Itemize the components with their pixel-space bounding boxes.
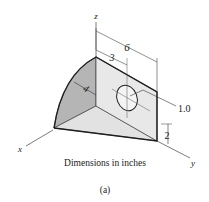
x-axis [26, 130, 53, 146]
x-axis-label: x [17, 144, 22, 154]
caption: Dimensions in inches [64, 158, 146, 168]
y-axis-label: y [190, 158, 195, 168]
dim-3-label: 3 [109, 52, 115, 63]
dim-1-label: 1.0 [178, 103, 191, 114]
dim-6-label: 6 [124, 41, 130, 53]
part-diagram: 6 3 4 1.0 2 z x y Dimensions in inches (… [0, 0, 209, 202]
y-axis [157, 141, 190, 158]
sublabel: (a) [100, 185, 111, 196]
z-axis-label: z [93, 11, 98, 21]
dim-2-label: 2 [165, 130, 170, 141]
